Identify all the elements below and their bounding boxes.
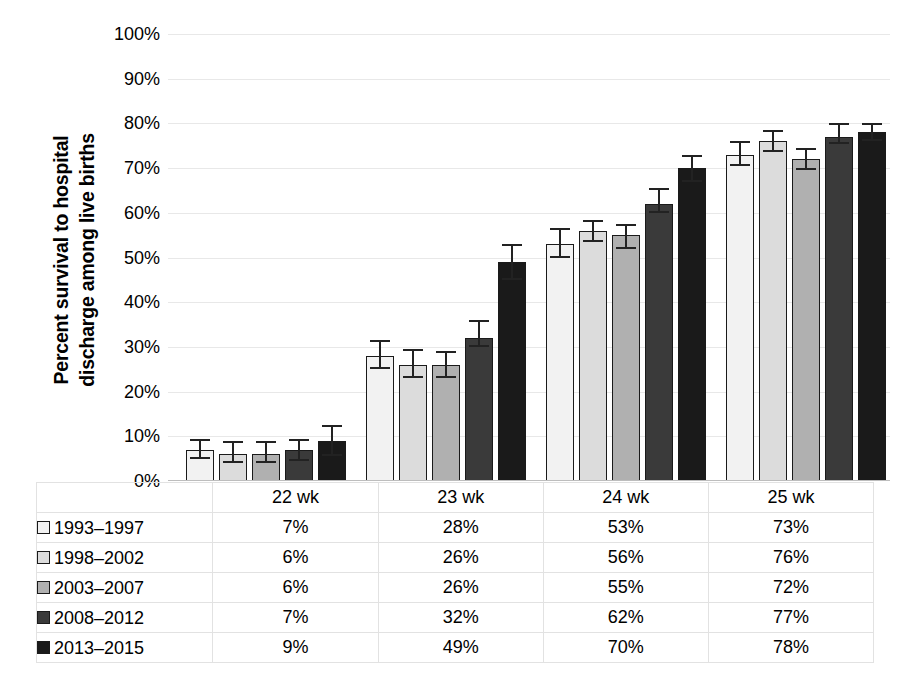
legend-entry: 2008–2012	[37, 603, 213, 633]
error-bar-cap-top	[256, 441, 276, 443]
bar	[285, 450, 313, 481]
table-cell-value: 53%	[543, 513, 708, 543]
table-corner-cell	[37, 483, 213, 513]
table-cell-value: 77%	[708, 603, 873, 633]
bar	[366, 356, 394, 481]
error-bar-cap-top	[322, 425, 342, 427]
legend-entry: 2003–2007	[37, 573, 213, 603]
bar	[252, 454, 280, 481]
bar	[498, 262, 526, 481]
legend-label: 1998–2002	[54, 547, 144, 567]
bar-group	[366, 34, 526, 481]
data-table: 22 wk23 wk24 wk25 wk1993–19977%28%53%73%…	[36, 482, 874, 663]
table-row: 2003–20076%26%55%72%	[37, 573, 874, 603]
table-cell-value: 70%	[543, 633, 708, 663]
table-cell-value: 55%	[543, 573, 708, 603]
table-column-header: 25 wk	[708, 483, 873, 513]
table-row: 2008–20127%32%62%77%	[37, 603, 874, 633]
y-tick-label: 10%	[124, 427, 160, 445]
y-tick-label: 80%	[124, 114, 160, 132]
error-bar-cap-top	[502, 244, 522, 246]
table-cell-value: 32%	[378, 603, 543, 633]
table-cell-value: 7%	[213, 513, 378, 543]
bar-chart-figure: Percent survival to hospital discharge a…	[0, 0, 907, 693]
error-bar-cap-top	[469, 320, 489, 322]
error-bar-cap-top	[223, 441, 243, 443]
bar	[645, 204, 673, 481]
legend-entry: 2013–2015	[37, 633, 213, 663]
error-bar-cap-top	[649, 188, 669, 190]
table-cell-value: 78%	[708, 633, 873, 663]
table-row: 1993–19977%28%53%73%	[37, 513, 874, 543]
table-cell-value: 76%	[708, 543, 873, 573]
y-tick-label: 60%	[124, 204, 160, 222]
legend-label: 2008–2012	[54, 607, 144, 627]
bar	[612, 235, 640, 481]
error-bar-cap-top	[436, 351, 456, 353]
plot-area	[168, 34, 890, 481]
error-bar-cap-top	[763, 130, 783, 132]
table-cell-value: 6%	[213, 573, 378, 603]
y-tick-label: 30%	[124, 338, 160, 356]
table-cell-value: 49%	[378, 633, 543, 663]
bar	[579, 231, 607, 481]
error-bar-cap-top	[796, 148, 816, 150]
bar-group	[726, 34, 886, 481]
error-bar-cap-top	[289, 439, 309, 441]
bar	[465, 338, 493, 481]
table-row: 2013–20159%49%70%78%	[37, 633, 874, 663]
bar	[858, 132, 886, 481]
bar	[759, 141, 787, 481]
error-bar-cap-top	[550, 228, 570, 230]
legend-swatch-icon	[37, 641, 50, 654]
bar	[432, 365, 460, 481]
bar	[678, 168, 706, 481]
legend-entry: 1993–1997	[37, 513, 213, 543]
legend-label: 2003–2007	[54, 577, 144, 597]
legend-swatch-icon	[37, 611, 50, 624]
legend-swatch-icon	[37, 521, 50, 534]
bar	[546, 244, 574, 481]
table-cell-value: 6%	[213, 543, 378, 573]
error-bar-cap-top	[682, 155, 702, 157]
y-tick-label: 70%	[124, 159, 160, 177]
bar	[825, 137, 853, 481]
error-bar-cap-top	[829, 123, 849, 125]
table-cell-value: 56%	[543, 543, 708, 573]
y-axis-title: Percent survival to hospital discharge a…	[30, 45, 102, 475]
table-cell-value: 62%	[543, 603, 708, 633]
table-cell-value: 26%	[378, 573, 543, 603]
table-column-header: 24 wk	[543, 483, 708, 513]
legend-label: 2013–2015	[54, 637, 144, 657]
error-bar-cap-top	[862, 123, 882, 125]
table-row: 1998–20026%26%56%76%	[37, 543, 874, 573]
table-column-header: 23 wk	[378, 483, 543, 513]
y-tick-label: 20%	[124, 383, 160, 401]
error-bar-cap-top	[616, 224, 636, 226]
bar	[726, 155, 754, 481]
x-axis-line	[168, 480, 890, 481]
legend-label: 1993–1997	[54, 517, 144, 537]
error-bar-cap-top	[730, 141, 750, 143]
table-cell-value: 73%	[708, 513, 873, 543]
legend-swatch-icon	[37, 551, 50, 564]
table-cell-value: 72%	[708, 573, 873, 603]
bar-group	[546, 34, 706, 481]
table-cell-value: 26%	[378, 543, 543, 573]
table-cell-value: 7%	[213, 603, 378, 633]
y-tick-label: 40%	[124, 293, 160, 311]
bar	[186, 450, 214, 481]
bar	[219, 454, 247, 481]
table-column-header: 22 wk	[213, 483, 378, 513]
legend-swatch-icon	[37, 581, 50, 594]
y-tick-label: 100%	[114, 25, 160, 43]
legend-entry: 1998–2002	[37, 543, 213, 573]
bar	[792, 159, 820, 481]
error-bar-cap-top	[190, 439, 210, 441]
bar	[318, 441, 346, 481]
error-bar-cap-top	[403, 349, 423, 351]
table-header-row: 22 wk23 wk24 wk25 wk	[37, 483, 874, 513]
table-cell-value: 9%	[213, 633, 378, 663]
bar-group	[186, 34, 346, 481]
error-bar-cap-top	[583, 220, 603, 222]
